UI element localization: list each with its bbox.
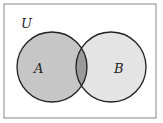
- universe-label: U: [21, 16, 33, 31]
- venn-diagram: U A B: [0, 0, 163, 123]
- set-b-label: B: [113, 61, 124, 76]
- set-a-label: A: [33, 61, 43, 76]
